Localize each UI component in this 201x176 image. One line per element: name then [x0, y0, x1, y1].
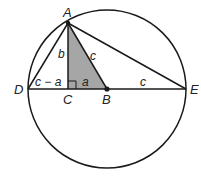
- label-point-a: A: [62, 5, 72, 20]
- label-point-e: E: [190, 82, 199, 97]
- label-segment-dc: c − a: [35, 75, 62, 89]
- label-point-b: B: [102, 92, 111, 107]
- label-segment-be: c: [140, 75, 146, 89]
- label-segment-ab: c: [90, 49, 96, 63]
- label-segment-ac: b: [58, 47, 65, 61]
- label-segment-cb: a: [82, 75, 89, 89]
- label-point-c: C: [63, 92, 73, 107]
- label-point-d: D: [14, 82, 23, 97]
- point-b-dot: [104, 86, 109, 91]
- geometry-diagram: A D C B E b c c − a a c: [0, 0, 201, 176]
- point-a-dot: [66, 21, 70, 25]
